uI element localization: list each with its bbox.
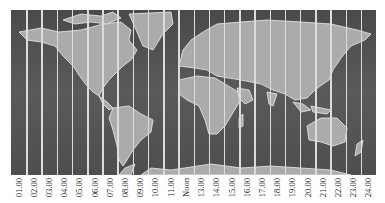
time-zone-line (194, 10, 196, 175)
greenland (129, 12, 173, 50)
time-zone-line (163, 10, 165, 175)
time-zone-label: 18.00 (272, 178, 282, 202)
time-zone-label: 23.00 (348, 178, 358, 202)
time-zone-label: 06.00 (90, 178, 100, 202)
time-zone-label: 13.00 (196, 178, 206, 202)
time-zone-line (270, 10, 272, 175)
time-zone-label: 20.00 (303, 178, 313, 202)
time-zone-label: 15.00 (227, 178, 237, 202)
time-zone-label: Noon (181, 178, 191, 202)
time-zone-line (26, 10, 28, 175)
time-zone-line (41, 10, 43, 175)
time-zone-line (224, 10, 226, 175)
australia (307, 118, 347, 146)
time-zone-label: 09.00 (135, 178, 145, 202)
north-america (19, 22, 137, 96)
time-zone-line (148, 10, 150, 175)
time-zone-label: 11.00 (166, 178, 176, 202)
time-zone-label: 02.00 (29, 178, 39, 202)
time-zone-label: 24.00 (363, 178, 373, 202)
time-zone-label: 05.00 (74, 178, 84, 202)
time-zone-line (209, 10, 211, 175)
time-zone-line (361, 10, 363, 175)
time-zone-line (346, 10, 348, 175)
time-zone-label-row: 01.0002.0003.0004.0005.0006.0007.0008.00… (11, 176, 376, 203)
time-zone-line (300, 10, 302, 175)
time-zone-label: 21.00 (318, 178, 328, 202)
time-zone-label: 03.00 (44, 178, 54, 202)
time-zone-label: 14.00 (211, 178, 221, 202)
time-zone-line (178, 10, 180, 175)
time-zone-label: 17.00 (257, 178, 267, 202)
time-zone-label: 04.00 (59, 178, 69, 202)
time-zone-label: 22.00 (333, 178, 343, 202)
world-time-zone-map (11, 10, 376, 175)
time-zone-label: 10.00 (150, 178, 160, 202)
time-zone-line (315, 10, 317, 175)
time-zone-label: 16.00 (242, 178, 252, 202)
south-america (109, 106, 153, 166)
time-zone-line (87, 10, 89, 175)
time-zone-label: 19.00 (287, 178, 297, 202)
time-zone-line (254, 10, 256, 175)
time-zone-line (285, 10, 287, 175)
time-zone-label: 01.00 (14, 178, 24, 202)
time-zone-line (133, 10, 135, 175)
time-zone-label: 08.00 (120, 178, 130, 202)
time-zone-label: 07.00 (105, 178, 115, 202)
time-zone-line (239, 10, 241, 175)
time-zone-line (117, 10, 119, 175)
time-zone-line (72, 10, 74, 175)
africa (179, 76, 243, 134)
time-zone-line (57, 10, 59, 175)
time-zone-line (330, 10, 332, 175)
time-zone-line (102, 10, 104, 175)
